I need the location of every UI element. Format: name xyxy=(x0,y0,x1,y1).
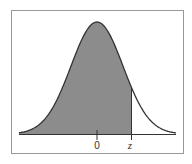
normal-distribution-diagram: 0 z xyxy=(0,0,192,164)
label-zero: 0 xyxy=(94,140,100,151)
label-z: z xyxy=(127,139,133,151)
